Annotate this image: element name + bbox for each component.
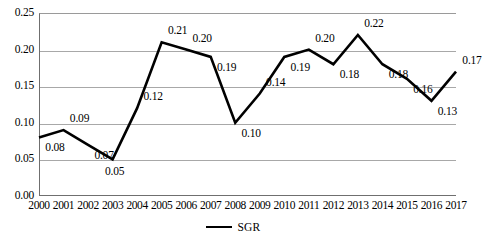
x-axis-tick-label: 2007 bbox=[200, 199, 221, 212]
x-axis-tick-label: 2006 bbox=[175, 199, 196, 212]
plot-area bbox=[39, 13, 456, 196]
x-axis-tick-label: 2013 bbox=[347, 199, 368, 212]
data-point-label: 0.08 bbox=[45, 143, 64, 155]
data-point-label: 0.18 bbox=[389, 69, 408, 81]
x-axis-tick-label: 2012 bbox=[323, 199, 344, 212]
data-point-label: 0.19 bbox=[291, 62, 310, 74]
x-axis-tick-label: 2016 bbox=[421, 199, 442, 212]
x-axis-tick-label: 2004 bbox=[126, 199, 147, 212]
y-axis: 0.000.050.100.150.200.25 bbox=[0, 13, 36, 196]
x-axis-tick-label: 2008 bbox=[225, 199, 246, 212]
data-point-label: 0.14 bbox=[266, 77, 285, 89]
data-point-label: 0.19 bbox=[217, 62, 236, 74]
x-axis-tick-label: 2011 bbox=[298, 199, 319, 212]
y-axis-tick-label: 0.15 bbox=[0, 80, 34, 92]
x-axis: 2000200120022003200420052006200720082009… bbox=[39, 199, 456, 215]
x-axis-tick-label: 2002 bbox=[77, 199, 98, 212]
x-axis-tick-label: 2015 bbox=[396, 199, 417, 212]
data-point-label: 0.18 bbox=[340, 69, 359, 81]
data-point-label: 0.21 bbox=[168, 26, 187, 38]
data-point-label: 0.09 bbox=[70, 113, 89, 125]
data-point-label: 0.20 bbox=[315, 33, 334, 45]
x-axis-tick-label: 2014 bbox=[372, 199, 393, 212]
data-point-label: 0.13 bbox=[438, 106, 457, 118]
data-point-label: 0.16 bbox=[413, 84, 432, 96]
x-axis-tick-label: 2001 bbox=[53, 199, 74, 212]
data-point-label: 0.05 bbox=[105, 167, 124, 179]
data-point-label: 0.22 bbox=[364, 18, 383, 30]
x-axis-tick-label: 2003 bbox=[102, 199, 123, 212]
data-point-label: 0.12 bbox=[143, 91, 162, 103]
gridline bbox=[40, 51, 456, 52]
y-axis-tick-label: 0.05 bbox=[0, 153, 34, 165]
chart-legend: SGR bbox=[0, 219, 466, 235]
x-axis-tick-label: 2010 bbox=[274, 199, 295, 212]
x-axis-tick-label: 2017 bbox=[445, 199, 466, 212]
data-point-label: 0.07 bbox=[94, 150, 113, 162]
legend-line-swatch bbox=[206, 226, 232, 228]
gridline bbox=[40, 124, 456, 125]
y-axis-tick-label: 0.20 bbox=[0, 44, 34, 56]
x-axis-tick-label: 2009 bbox=[249, 199, 270, 212]
y-axis-tick-label: 0.10 bbox=[0, 117, 34, 129]
legend-label-sgr: SGR bbox=[238, 221, 261, 233]
data-point-label: 0.17 bbox=[462, 55, 481, 67]
y-axis-tick-label: 0.25 bbox=[0, 7, 34, 19]
data-point-label: 0.10 bbox=[242, 128, 261, 140]
x-axis-tick-label: 2005 bbox=[151, 199, 172, 212]
data-point-label: 0.20 bbox=[193, 33, 212, 45]
gridline bbox=[40, 87, 456, 88]
x-axis-tick-label: 2000 bbox=[28, 199, 49, 212]
